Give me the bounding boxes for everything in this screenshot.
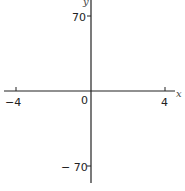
- y-axis-label: y: [82, 0, 89, 7]
- x-tick-label-4: 4: [161, 96, 168, 109]
- y-tick-label-neg70: − 70: [61, 161, 88, 174]
- x-axis-label: x: [176, 88, 182, 99]
- coordinate-plane: −4 4 0 70 − 70 x y: [0, 0, 185, 191]
- y-tick-label-70: 70: [72, 11, 86, 24]
- x-tick-label-neg4: −4: [5, 96, 21, 109]
- origin-label: 0: [81, 94, 88, 107]
